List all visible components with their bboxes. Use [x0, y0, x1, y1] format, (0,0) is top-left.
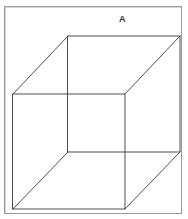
cube-edge-bottom-right — [125, 152, 180, 209]
cube-edge-bottom-left — [13, 152, 68, 209]
cube-diagram — [0, 0, 188, 219]
cube-edge-top-left — [13, 36, 68, 94]
cube-edge-top-right — [125, 36, 180, 94]
figure-canvas: A — [0, 0, 188, 219]
